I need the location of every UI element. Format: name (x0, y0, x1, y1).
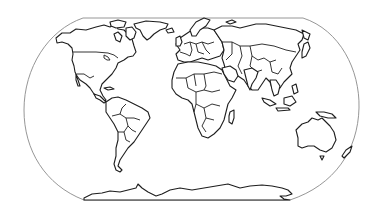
north-america-outline (56, 24, 136, 102)
sumatra (262, 98, 276, 106)
borneo (284, 96, 296, 106)
cuba (104, 87, 114, 90)
world-map (0, 0, 378, 216)
baffin-island (126, 27, 136, 40)
philippines (292, 84, 298, 94)
japan (302, 42, 310, 58)
new-guinea (316, 112, 336, 118)
new-zealand (342, 146, 352, 158)
arctic-islands (110, 20, 126, 28)
novaya-zemlya (226, 20, 236, 24)
australia-outline (296, 118, 336, 152)
java (276, 108, 290, 111)
iceland (166, 28, 174, 33)
greenland-outline (134, 21, 168, 40)
kamchatka (302, 30, 310, 40)
antarctica-outline (84, 184, 292, 200)
south-america-outline (106, 97, 150, 172)
tasmania (320, 156, 324, 160)
madagascar (229, 110, 234, 124)
